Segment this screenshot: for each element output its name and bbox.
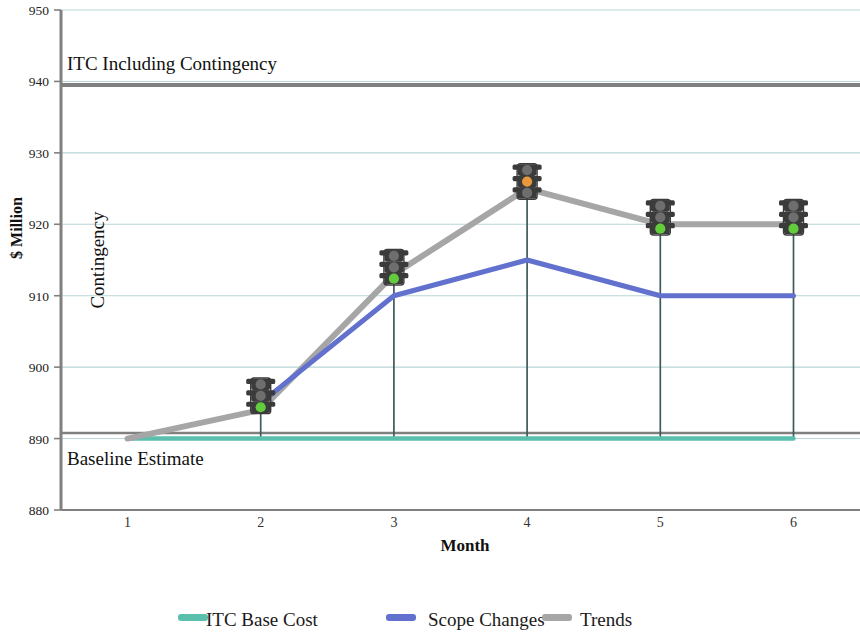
chart-canvas: 950940930920910900890880 123456 $ Millio… [0,0,860,636]
traffic-light-lamp-middle [788,212,798,222]
traffic-light-lamp-middle [256,391,266,401]
traffic-light-icon-green [379,249,408,285]
traffic-light-lamp-top [389,251,399,261]
chart-legend: ITC Base CostScope ChangesTrends [178,609,632,630]
x-axis-title: Month [440,536,490,555]
x-axis-tick-labels: 123456 [124,515,797,530]
legend-label: Trends [580,609,632,630]
traffic-light-lamp-top [788,201,798,211]
x-axis-tick-label: 6 [790,515,797,530]
traffic-light-lamp-middle [655,212,665,222]
traffic-light-lamp-bottom [788,224,798,234]
y-axis-tick-label: 910 [29,289,50,304]
reference-lines [61,85,860,433]
x-axis-tick-label: 2 [257,515,264,530]
y-axis-tick-label: 920 [29,217,50,232]
y-axis-tick-label: 950 [29,3,50,18]
y-axis-title: $ Million [8,197,25,259]
data-series [128,189,794,439]
legend-swatch [542,614,572,621]
y-axis-tick-label: 890 [29,432,50,447]
traffic-light-lamp-top [522,165,532,175]
traffic-light-lamp-top [256,379,266,389]
y-axis-tick-labels: 950940930920910900890880 [29,3,50,518]
legend-item: ITC Base Cost [178,609,319,630]
x-axis-tick-label: 3 [390,515,397,530]
y-axis-tick-label: 880 [29,503,50,518]
y-axis-tick-label: 900 [29,360,50,375]
traffic-light-icon-green [646,199,675,235]
traffic-light-lamp-middle [522,176,532,186]
traffic-light-lamp-middle [389,262,399,272]
x-axis-tick-label: 5 [657,515,664,530]
x-axis-tick-label: 4 [524,515,531,530]
legend-swatch [178,614,208,621]
traffic-light-icon-green [779,199,808,235]
annotation-itc-including-contingency: ITC Including Contingency [67,53,278,74]
y-axis-tick-label: 940 [29,74,50,89]
traffic-light-lamp-bottom [655,224,665,234]
legend-item: Scope Changes [386,609,545,630]
itc-trend-chart: 950940930920910900890880 123456 $ Millio… [0,0,860,636]
legend-item: Trends [542,609,632,630]
traffic-light-icon-green [246,378,275,414]
legend-label: Scope Changes [428,609,545,630]
legend-swatch [386,614,416,621]
traffic-light-lamp-bottom [256,402,266,412]
legend-label: ITC Base Cost [206,609,319,630]
traffic-light-lamp-bottom [389,274,399,284]
x-axis-tick-label: 1 [124,515,131,530]
traffic-light-lamp-top [655,201,665,211]
annotation-contingency: Contingency [87,211,108,309]
series-line-trends [128,189,794,439]
annotation-baseline-estimate: Baseline Estimate [67,448,204,469]
traffic-light-icon-amber [513,164,542,200]
y-axis-tick-label: 930 [29,146,50,161]
traffic-light-lamp-bottom [522,188,532,198]
